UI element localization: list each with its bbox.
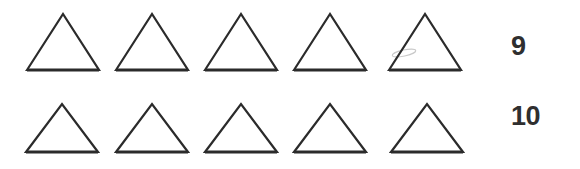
pencil-smudge-artifact bbox=[392, 48, 417, 59]
triangle-shape bbox=[116, 14, 188, 70]
triangle-shape bbox=[389, 14, 461, 70]
triangle-shape bbox=[205, 104, 277, 152]
shape-row-1 bbox=[27, 14, 461, 70]
shape-row-2 bbox=[26, 104, 463, 152]
triangle-shape bbox=[27, 14, 99, 70]
shape-canvas bbox=[0, 0, 580, 169]
triangle-shape bbox=[391, 104, 463, 152]
count-label-row-1: 9 bbox=[511, 33, 526, 60]
triangle-shape bbox=[26, 104, 98, 152]
triangle-shape bbox=[294, 14, 366, 70]
triangle-shape bbox=[205, 14, 277, 70]
triangle-counting-worksheet: 9 10 bbox=[0, 0, 580, 169]
triangle-shape bbox=[116, 104, 188, 152]
count-label-row-2: 10 bbox=[511, 103, 540, 130]
triangle-shape bbox=[294, 104, 366, 152]
